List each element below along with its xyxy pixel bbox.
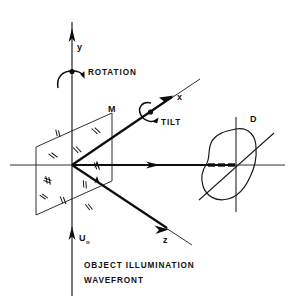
x-axis-label: x — [177, 92, 182, 102]
rotation-node — [69, 69, 74, 74]
wavefront-label-subscript: o — [86, 239, 90, 245]
y-axis-label: y — [77, 42, 82, 52]
mask-label-M: M — [108, 104, 116, 114]
caption-line-1: OBJECT ILLUMINATION — [84, 261, 195, 270]
figure-root: y x z ROTATION TILT M D U o OBJECT ILLUM… — [0, 0, 291, 303]
caption-line-2: WAVEFRONT — [84, 276, 144, 285]
object-label-D: D — [250, 114, 257, 124]
tilt-node — [148, 109, 153, 114]
z-axis-label: z — [163, 235, 168, 245]
figure-background — [0, 0, 291, 303]
rotation-label: ROTATION — [88, 68, 137, 77]
optical-diagram: y x z ROTATION TILT M D U o OBJECT ILLUM… — [0, 0, 291, 303]
tilt-label: TILT — [161, 118, 181, 127]
wavefront-label-U: U — [79, 233, 86, 243]
